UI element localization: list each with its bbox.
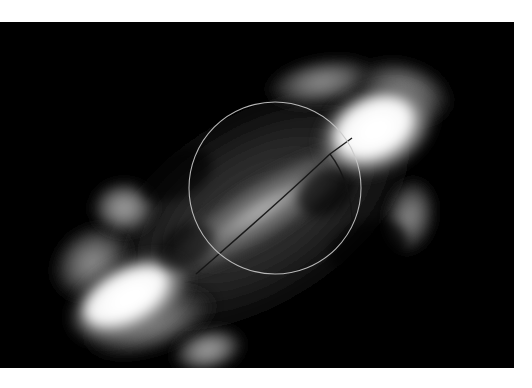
- page-margin-bottom: [0, 368, 532, 388]
- intensity-map-canvas: [0, 22, 514, 368]
- figure-frame: [0, 22, 514, 368]
- page-margin-right: [514, 0, 532, 388]
- figure-page: [0, 0, 532, 388]
- page-margin-top: [0, 0, 532, 22]
